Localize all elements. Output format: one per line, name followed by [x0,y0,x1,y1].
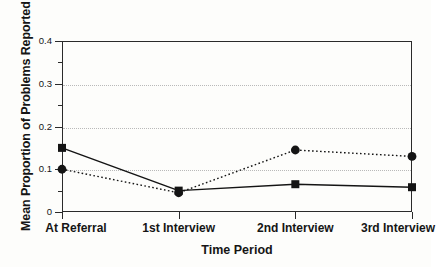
x-tick [295,212,296,219]
gridline [63,85,411,86]
gridline [63,128,411,129]
x-tick-label: 1st Interview [119,221,239,235]
y-tick-label: 0.4 [12,35,52,46]
plot-area [62,41,412,212]
gridline [63,170,411,171]
x-tick [412,212,413,219]
y-tick-major [55,84,62,85]
x-tick [179,212,180,219]
y-tick-label: 0.2 [12,121,52,132]
y-tick-major [55,212,62,213]
y-tick-label: 0.3 [12,78,52,89]
x-tick [62,212,63,219]
y-tick-major [55,41,62,42]
y-tick-label: 0.1 [12,163,52,174]
y-tick-label: 0 [12,206,52,217]
y-tick-major [55,127,62,128]
x-axis-title: Time Period [62,243,412,257]
x-tick-label: 3rd Interview [338,221,440,235]
y-tick-major [55,169,62,170]
